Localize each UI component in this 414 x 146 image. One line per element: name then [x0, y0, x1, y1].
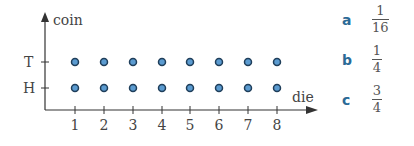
outcome-dot — [245, 59, 252, 66]
outcome-dot — [72, 85, 79, 92]
outcome-dot — [130, 59, 137, 66]
outcome-dot — [245, 85, 252, 92]
numerator: 1 — [373, 44, 381, 58]
y-tick-label-h: H — [23, 80, 35, 96]
numerator: 1 — [376, 4, 384, 18]
fraction: 1 4 — [372, 44, 382, 75]
answer-c: c 3 4 — [330, 84, 382, 115]
answer-letter: a — [330, 12, 364, 28]
answer-b: b 1 4 — [330, 44, 382, 75]
outcome-dot — [159, 59, 166, 66]
outcome-dot — [101, 59, 108, 66]
fraction: 3 4 — [372, 84, 382, 115]
outcome-dot — [274, 85, 281, 92]
denominator: 4 — [373, 101, 381, 115]
answer-a: a 1 16 — [330, 4, 389, 35]
denominator: 4 — [373, 61, 381, 75]
x-axis-arrow-icon — [306, 106, 318, 114]
outcome-dots-heads — [72, 85, 281, 92]
outcome-dot — [274, 59, 281, 66]
outcome-dot — [159, 85, 166, 92]
x-tick-label: 4 — [158, 117, 167, 133]
answer-letter: b — [330, 52, 364, 68]
outcome-dots-tails — [72, 59, 281, 66]
answer-letter: c — [330, 92, 364, 108]
denominator: 16 — [372, 21, 389, 35]
x-tick-label: 7 — [244, 117, 253, 133]
outcome-dot — [216, 85, 223, 92]
sample-space-diagram: coin die T H 1 2 3 4 5 6 7 8 — [0, 0, 330, 146]
y-axis-label: coin — [53, 12, 83, 28]
outcome-dot — [72, 59, 79, 66]
y-axis-arrow-icon — [41, 12, 49, 22]
y-tick-label-t: T — [24, 54, 34, 70]
outcome-dot — [130, 85, 137, 92]
x-tick-label: 1 — [71, 117, 80, 133]
outcome-dot — [216, 59, 223, 66]
x-axis-label: die — [292, 89, 314, 105]
x-tick-label: 5 — [186, 117, 195, 133]
x-tick-label: 3 — [129, 117, 138, 133]
answers-list: a 1 16 b 1 4 c 3 4 — [330, 0, 414, 146]
outcome-dot — [101, 85, 108, 92]
sample-space-plot: coin die T H 1 2 3 4 5 6 7 8 — [0, 0, 330, 146]
fraction: 1 16 — [372, 4, 389, 35]
x-tick-label: 2 — [100, 117, 109, 133]
outcome-dot — [187, 85, 194, 92]
x-tick-labels: 1 2 3 4 5 6 7 8 — [71, 117, 282, 133]
outcome-dot — [187, 59, 194, 66]
numerator: 3 — [373, 84, 381, 98]
x-tick-label: 6 — [215, 117, 224, 133]
x-tick-label: 8 — [273, 117, 282, 133]
